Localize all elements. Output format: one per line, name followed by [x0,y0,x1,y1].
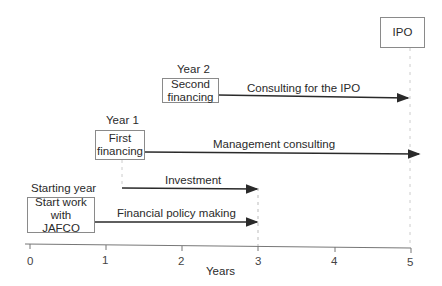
ipo-consulting-arrow [218,95,408,98]
box-line: with [28,209,94,222]
x-axis [25,244,411,248]
management-consulting-label: Management consulting [213,138,335,150]
investment-label: Investment [165,174,221,186]
box-line: financing [96,145,144,158]
box-line: First [96,132,144,145]
tick-2: 2 [178,255,184,267]
year2-label: Year 2 [177,63,210,75]
ipo-consulting-label: Consulting for the IPO [247,82,360,94]
box-line: Second [163,78,218,91]
management-consulting-arrow [144,152,419,154]
year1-label: Year 1 [106,114,139,126]
investment-arrow [122,188,257,189]
axis-label: Years [206,265,235,277]
starting-year-label: Starting year [31,182,96,194]
box-line: Start work [28,196,94,209]
tick-0: 0 [27,255,33,267]
first-financing-box: First financing [95,130,145,160]
tick-4: 4 [331,255,337,267]
box-line: JAFCO [28,222,94,235]
tick-1: 1 [102,254,108,266]
box-line: IPO [381,26,424,39]
start-work-box: Start work with JAFCO [27,197,95,233]
ipo-box: IPO [380,17,425,48]
tick-5: 5 [407,256,413,268]
tick-3: 3 [255,255,261,267]
financial-policy-label: Financial policy making [117,207,236,219]
box-line: financing [163,91,218,104]
second-financing-box: Second financing [162,78,219,103]
